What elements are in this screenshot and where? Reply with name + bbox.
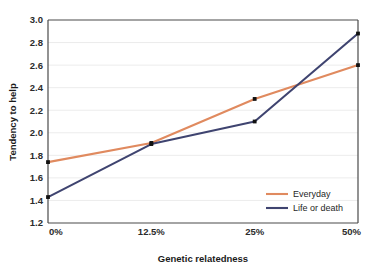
y-tick-label: 1.2 <box>30 217 43 228</box>
data-point-marker <box>46 160 50 164</box>
data-point-marker <box>253 97 257 101</box>
chart-figure: 3.02.82.62.42.22.01.81.61.41.2 0%12.5%25… <box>0 0 377 277</box>
x-tick-label: 0% <box>49 226 63 237</box>
x-tick-label: 12.5% <box>138 226 165 237</box>
legend-label: Life or death <box>293 203 343 213</box>
y-tick-label: 2.6 <box>30 60 43 71</box>
line-chart: 3.02.82.62.42.22.01.81.61.41.2 0%12.5%25… <box>0 0 377 277</box>
y-tick-label: 1.4 <box>30 195 44 206</box>
y-axis-title: Tendency to help <box>7 83 18 161</box>
y-tick-label: 2.0 <box>30 127 43 138</box>
data-point-marker <box>356 63 360 67</box>
data-point-marker <box>149 142 153 146</box>
y-tick-label: 1.6 <box>30 172 43 183</box>
x-axis-title: Genetic relatedness <box>158 253 248 264</box>
y-tick-label: 1.8 <box>30 150 43 161</box>
y-tick-label: 2.8 <box>30 37 43 48</box>
data-point-marker <box>46 195 50 199</box>
legend-label: Everyday <box>293 189 331 199</box>
data-point-marker <box>356 32 360 36</box>
x-axis-tick-labels: 0%12.5%25%50% <box>49 226 362 237</box>
data-point-marker <box>253 120 257 124</box>
y-tick-label: 2.4 <box>30 82 44 93</box>
x-tick-label: 50% <box>342 226 362 237</box>
y-axis-tick-labels: 3.02.82.62.42.22.01.81.61.41.2 <box>30 14 44 228</box>
y-tick-label: 2.2 <box>30 105 43 116</box>
y-tick-label: 3.0 <box>30 14 43 25</box>
x-tick-label: 25% <box>245 226 265 237</box>
